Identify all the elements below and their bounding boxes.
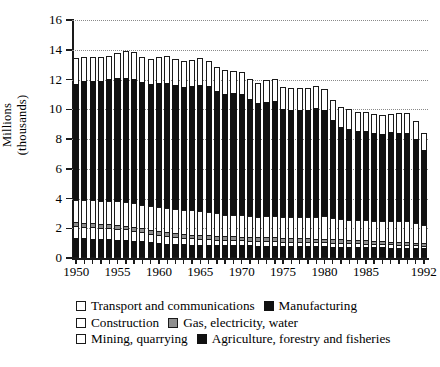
bar-segment <box>388 114 394 133</box>
legend-item[interactable]: Mining, quarrying <box>76 331 188 348</box>
bar-segment <box>313 86 319 108</box>
x-tick-label: 1975 <box>263 265 303 279</box>
bar <box>230 71 236 258</box>
bar <box>346 109 352 258</box>
bar-segment <box>189 60 195 86</box>
legend-item[interactable]: Transport and communications <box>76 298 255 315</box>
bar-segment <box>313 108 319 217</box>
x-tick <box>407 259 408 264</box>
legend-swatch-icon <box>76 318 86 328</box>
bar-segment <box>164 56 170 83</box>
x-tick-label: 1992 <box>404 265 440 279</box>
bar-segment <box>172 237 178 244</box>
bar-segment <box>131 52 137 79</box>
bar-segment <box>197 58 203 85</box>
y-tick-label: 6 <box>36 162 62 175</box>
bar-segment <box>73 200 79 222</box>
x-tick-label: 1960 <box>139 265 179 279</box>
legend-item[interactable]: Construction <box>76 315 159 332</box>
bar-segment <box>206 212 212 236</box>
bar-segment <box>388 221 394 242</box>
bar-segment <box>404 248 410 258</box>
bar-segment <box>255 83 261 104</box>
x-tick <box>175 259 176 264</box>
bar-segment <box>197 211 203 235</box>
bar-segment <box>404 221 410 242</box>
legend-item[interactable]: Agriculture, forestry and fisheries <box>197 331 391 348</box>
bar <box>172 59 178 258</box>
bar-segment <box>139 82 145 205</box>
bar <box>305 88 311 258</box>
bar-segment <box>164 236 170 243</box>
bar-segment <box>230 71 236 93</box>
bar-segment <box>371 247 377 258</box>
bar-segment <box>148 234 154 242</box>
x-tick <box>390 259 391 264</box>
bar-segment <box>413 121 419 139</box>
bar-segment <box>355 220 361 240</box>
bar-segment <box>247 99 253 216</box>
bar-segment <box>230 93 236 215</box>
y-tick-label: 2 <box>36 221 62 234</box>
plot-area: 0246810121416 <box>72 20 428 258</box>
bar-segment <box>421 133 427 150</box>
bar-segment <box>330 100 336 120</box>
bar-segment <box>355 247 361 258</box>
bar-segment <box>139 57 145 82</box>
bar <box>98 57 104 258</box>
x-tick-label: 1950 <box>56 265 96 279</box>
bar-segment <box>263 216 269 237</box>
bar-segment <box>172 209 178 233</box>
bar <box>90 57 96 258</box>
bar-segment <box>222 70 228 94</box>
bar <box>421 133 427 258</box>
bar-segment <box>164 208 170 232</box>
bar-segment <box>90 227 96 238</box>
bar-segment <box>73 238 79 258</box>
bar <box>214 67 220 258</box>
bar-segment <box>363 131 369 220</box>
bar-segment <box>164 244 170 258</box>
bar-segment <box>305 110 311 217</box>
bar-segment <box>106 201 112 225</box>
bar-segment <box>197 85 203 211</box>
bar-segment <box>73 58 79 84</box>
bar-segment <box>297 110 303 218</box>
bar-segment <box>239 94 245 216</box>
bar-segment <box>131 203 137 227</box>
bar-segment <box>81 81 87 200</box>
x-tick <box>299 259 300 264</box>
bar-segment <box>230 215 236 236</box>
bar-segment <box>230 245 236 258</box>
bar-segment <box>305 217 311 238</box>
bar-segment <box>222 245 228 258</box>
legend-swatch-icon <box>76 301 86 311</box>
bar-segment <box>346 247 352 258</box>
bar <box>413 121 419 258</box>
legend-label: Manufacturing <box>279 298 357 315</box>
legend-item[interactable]: Gas, electricity, water <box>168 315 298 332</box>
bar-segment <box>272 246 278 258</box>
bar-segment <box>396 113 402 132</box>
bar-segment <box>181 210 187 234</box>
bar-segment <box>413 139 419 223</box>
bar <box>371 114 377 258</box>
bar <box>280 87 286 258</box>
bar-segment <box>172 59 178 85</box>
y-axis-title-line-2: (thousands) <box>15 77 30 173</box>
bar-segment <box>98 228 104 239</box>
y-tick-label: 14 <box>36 43 62 56</box>
bar-segment <box>148 84 154 206</box>
bar <box>131 52 137 258</box>
bar-segment <box>181 238 187 245</box>
bar-segment <box>181 244 187 258</box>
bar-segment <box>114 78 120 201</box>
legend-label: Construction <box>91 315 159 332</box>
bar-segment <box>363 112 369 131</box>
legend-item[interactable]: Manufacturing <box>264 298 357 315</box>
bar-segment <box>346 129 352 220</box>
bar-segment <box>90 239 96 258</box>
y-axis-title: Millions (thousands) <box>0 77 34 173</box>
bar-segment <box>280 246 286 258</box>
bar-segment <box>181 61 187 86</box>
